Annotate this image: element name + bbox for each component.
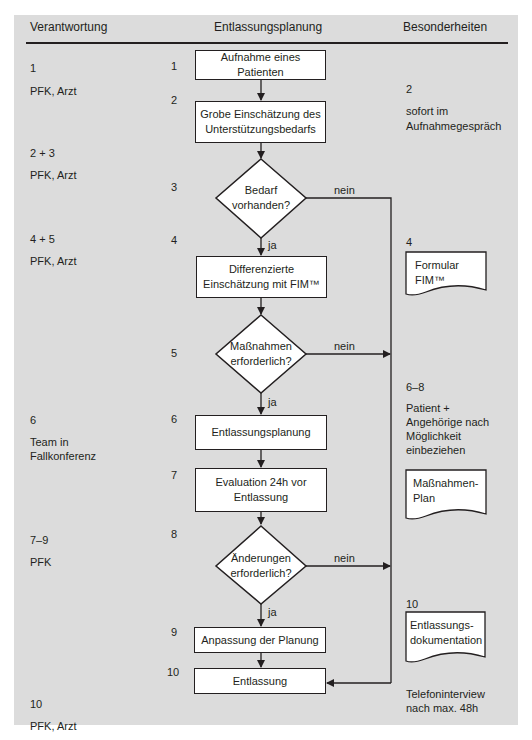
process-aufnahme: Aufnahme eines Patienten (195, 50, 326, 80)
note-10-doc-line1: Entlassungs- (410, 618, 482, 633)
step-number-2: 2 (171, 93, 177, 107)
process-evaluation-line1: Evaluation 24h vor (215, 475, 306, 490)
yes-label-massnahmen: ja (268, 395, 277, 409)
note-10-doc-line2: dokumentation (410, 633, 482, 648)
note-10-line1: Telefoninterview (406, 687, 485, 701)
note-2-line1: sofort im (406, 104, 448, 118)
no-label-bedarf: nein (334, 183, 355, 197)
note-4-number: 4 (406, 235, 412, 249)
step-number-8: 8 (171, 527, 177, 541)
resp-steps-10: 10 (30, 697, 42, 711)
resp-who-4-5: PFK, Arzt (30, 254, 76, 268)
note-6-8-doc-line1: Maßnahmen- (413, 476, 478, 491)
note-6-8-line3: Möglichkeit (406, 429, 461, 443)
note-10-line2: nach max. 48h (406, 701, 478, 715)
note-2-number: 2 (406, 82, 412, 96)
process-entlassung-label: Entlassung (233, 674, 287, 689)
step-number-5: 5 (171, 346, 177, 360)
resp-who-2-3: PFK, Arzt (30, 168, 76, 182)
process-anpassung: Anpassung der Planung (194, 627, 326, 653)
step-number-7: 7 (171, 468, 177, 482)
note-6-8-line2: Angehörige nach (406, 415, 489, 429)
decision-massnahmen-text: Maßnahmen erforderlich? (216, 339, 306, 369)
note-10-doc-text: Entlassungs- dokumentation (410, 618, 482, 648)
note-4-doc-line1: Formular (415, 258, 459, 273)
resp-who-1: PFK, Arzt (30, 84, 76, 98)
step-number-1: 1 (171, 59, 177, 73)
note-6-8-number: 6–8 (406, 380, 424, 394)
process-anpassung-label: Anpassung der Planung (201, 633, 318, 648)
process-differenzierte-einschaetzung: Differenzierte Einschätzung mit FIM™ (196, 256, 327, 298)
resp-steps-4-5: 4 + 5 (30, 232, 55, 246)
yes-label-bedarf: ja (268, 238, 277, 252)
resp-steps-6: 6 (30, 413, 36, 427)
note-2-line2: Aufnahmegespräch (406, 119, 501, 133)
process-entlassungsplanung: Entlassungsplanung (195, 415, 327, 450)
process-evaluation: Evaluation 24h vor Entlassung (195, 468, 327, 512)
resp-who-6-line2: Fallkonferenz (30, 449, 96, 463)
process-entlassung: Entlassung (194, 668, 326, 694)
step-number-9: 9 (171, 625, 177, 639)
process-entlassungsplanung-label: Entlassungsplanung (211, 425, 310, 440)
process-grobe-einschaetzung-line2: Unterstützungsbedarfs (205, 122, 316, 137)
note-10-number: 10 (406, 597, 418, 611)
decision-bedarf-line2: vorhanden? (216, 198, 306, 213)
resp-steps-7-9: 7–9 (30, 533, 48, 547)
process-differenzierte-line1: Differenzierte (229, 262, 294, 277)
decision-aenderungen-line2: erforderlich? (216, 566, 306, 581)
note-6-8-line1: Patient + (406, 401, 450, 415)
process-grobe-einschaetzung: Grobe Einschätzung des Unterstützungsbed… (195, 101, 326, 143)
process-differenzierte-line2: Einschätzung mit FIM™ (203, 277, 320, 292)
step-number-4: 4 (171, 233, 177, 247)
resp-steps-1: 1 (30, 61, 36, 75)
note-6-8-doc-line2: Plan (413, 491, 478, 506)
decision-bedarf-line1: Bedarf (216, 183, 306, 198)
decision-aenderungen-text: Änderungen erforderlich? (216, 551, 306, 581)
note-4-doc-text: Formular FIM™ (415, 258, 459, 288)
decision-massnahmen-line2: erforderlich? (216, 354, 306, 369)
process-evaluation-line2: Entlassung (234, 490, 288, 505)
no-label-aenderungen: nein (334, 551, 355, 565)
resp-who-7-9: PFK (30, 555, 51, 569)
resp-steps-2-3: 2 + 3 (30, 146, 55, 160)
resp-who-10: PFK, Arzt (30, 719, 76, 733)
decision-bedarf-text: Bedarf vorhanden? (216, 183, 306, 213)
resp-who-6-line1: Team in (30, 435, 69, 449)
no-label-massnahmen: nein (334, 339, 355, 353)
note-6-8-line4: einbeziehen (406, 443, 465, 457)
decision-massnahmen-line1: Maßnahmen (216, 339, 306, 354)
decision-aenderungen-line1: Änderungen (216, 551, 306, 566)
step-number-3: 3 (171, 180, 177, 194)
process-grobe-einschaetzung-line1: Grobe Einschätzung des (200, 107, 320, 122)
note-6-8-doc-text: Maßnahmen- Plan (413, 476, 478, 506)
note-4-doc-line2: FIM™ (415, 273, 459, 288)
process-aufnahme-label: Aufnahme eines Patienten (196, 50, 325, 80)
step-number-10: 10 (167, 665, 179, 679)
yes-label-aenderungen: ja (268, 605, 277, 619)
step-number-6: 6 (171, 412, 177, 426)
